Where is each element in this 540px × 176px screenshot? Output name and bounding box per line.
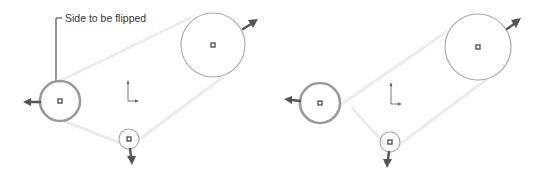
belt-segment-cross-top (342, 32, 446, 104)
bottom-pulley[interactable] (380, 132, 400, 168)
annotation-label: Side to be flipped (65, 12, 146, 24)
arrow-left-icon (23, 98, 40, 106)
arrow-down-icon (383, 152, 392, 168)
left-pulley[interactable] (23, 81, 80, 121)
panel-before-flip: Side to be flipped (23, 12, 258, 165)
center-point (211, 43, 215, 47)
belt-segment-right (137, 78, 222, 141)
top-right-pulley[interactable] (445, 14, 521, 80)
leader-line (56, 18, 62, 82)
belt-segment-right (400, 80, 486, 144)
arrow-up-right-icon (243, 19, 258, 29)
bottom-pulley[interactable] (119, 129, 139, 165)
belt-segment-top (60, 18, 190, 81)
arrow-left-icon (284, 96, 300, 104)
belt-segment-cross-bottom (352, 108, 384, 143)
top-right-pulley[interactable] (181, 13, 258, 77)
belt-diagram: Side to be flipped (0, 0, 540, 176)
arrow-up-right-icon (507, 18, 521, 29)
center-point (476, 45, 480, 49)
center-point (318, 101, 322, 105)
center-point (127, 137, 131, 141)
arrow-down-icon (127, 149, 136, 165)
center-point (58, 99, 62, 103)
belt-segment-bottom (64, 121, 120, 143)
left-pulley[interactable] (284, 83, 340, 123)
origin-axis-icon (390, 82, 402, 105)
center-point (388, 140, 392, 144)
origin-axis-icon (127, 80, 139, 102)
panel-after-flip (284, 14, 521, 168)
